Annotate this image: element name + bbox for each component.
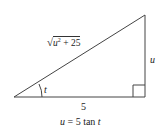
angle-arc — [39, 84, 42, 97]
triangle-figure — [0, 0, 162, 134]
adjacent-side-label: 5 — [81, 102, 86, 112]
equation-rest: = 5 tan — [65, 116, 98, 127]
opposite-side-label: u — [150, 55, 155, 65]
radicand: u2 + 25 — [53, 36, 80, 48]
equation-caption: u = 5 tan t — [60, 117, 101, 127]
radicand-rest: + 25 — [61, 38, 81, 48]
right-angle-marker — [133, 85, 145, 97]
triangle — [14, 15, 145, 97]
angle-label: t — [44, 85, 47, 95]
equation-var: t — [98, 116, 101, 127]
hypotenuse-label: √u2 + 25 — [47, 37, 80, 49]
